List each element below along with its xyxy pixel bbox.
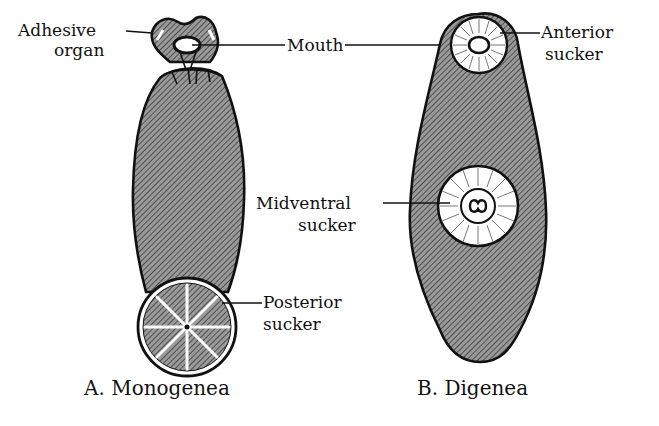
caption-digenea: B. Digenea [417,376,528,400]
posterior-sucker-center [185,325,190,330]
midventral-sucker-opening [470,200,486,211]
digenea-mouth [469,37,489,53]
caption-monogenea: A. Monogenea [83,376,230,400]
label-mouth: Mouth [287,35,343,55]
label-midventral-sucker-line2: sucker [298,215,357,235]
label-adhesive-organ-line2: organ [54,40,104,60]
label-posterior-sucker-line1: Posterior [263,292,342,312]
label-midventral-sucker-line1: Midventral [256,193,351,213]
monogenea-body [133,69,244,292]
monogenea-figure [133,17,244,376]
label-anterior-sucker-line2: sucker [545,44,604,64]
trematode-diagram: Adhesive organ Mouth Posterior sucker A.… [0,0,659,426]
label-anterior-sucker-line1: Anterior [540,22,614,42]
label-adhesive-organ-line1: Adhesive [17,20,96,40]
label-posterior-sucker-line2: sucker [263,314,322,334]
adhesive-organ-leader [126,31,152,33]
digenea-figure [410,13,546,362]
